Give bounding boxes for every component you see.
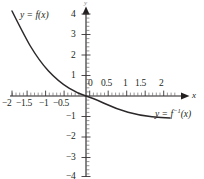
y-tick-label-neg-2: −2 xyxy=(66,132,76,142)
x-axis-arrowhead xyxy=(181,92,190,99)
function-graph-figure: 0 0.5 1 1.5 2 −2 −1.5 −1 −0.5 4 3 2 1 −1… xyxy=(0,0,204,179)
y-tick-label-neg-4: −4 xyxy=(66,172,76,179)
y-tick-label-neg-3: −3 xyxy=(66,153,76,163)
y-axis-label: y xyxy=(84,0,87,7)
y-tick-label-neg-1: −1 xyxy=(66,112,76,122)
curve-label-f-inverse-lhs: y = f xyxy=(155,109,173,119)
y-axis-arrowhead xyxy=(82,7,89,15)
curve-label-f-inverse-rhs: (x) xyxy=(181,109,192,119)
curve-label-f-text: y = f(x) xyxy=(20,10,49,20)
x-tick-label-neg-1-5: −1.5 xyxy=(16,99,32,109)
x-tick-label-neg-2: −2 xyxy=(2,99,12,109)
y-tick-label-2: 2 xyxy=(71,51,75,61)
curve-label-f-inverse: y = f−1(x) xyxy=(155,110,191,120)
exponential-curve xyxy=(12,11,170,118)
x-tick-label-0-5: 0.5 xyxy=(101,79,112,89)
curve-label-f: y = f(x) xyxy=(20,11,49,21)
x-tick-label-0: 0 xyxy=(88,79,92,89)
y-tick-label-3: 3 xyxy=(71,30,75,40)
y-axis-group xyxy=(82,7,91,178)
x-tick-label-neg-0-5: −0.5 xyxy=(53,99,69,109)
plot-canvas xyxy=(0,0,204,179)
y-tick-label-1: 1 xyxy=(71,71,75,81)
curve-label-f-inverse-exponent: −1 xyxy=(173,107,181,114)
x-tick-label-1: 1 xyxy=(123,79,127,89)
y-tick-label-4: 4 xyxy=(71,10,75,20)
x-tick-label-1-5: 1.5 xyxy=(135,79,146,89)
x-tick-label-2: 2 xyxy=(159,79,163,89)
x-axis-label: x xyxy=(192,91,196,100)
x-tick-label-neg-1: −1 xyxy=(39,99,49,109)
x-axis-group xyxy=(10,91,190,100)
